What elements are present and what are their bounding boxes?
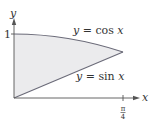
graph-canvas: y x 1 π 4 y = cos x y = sin x xyxy=(0,0,153,129)
cos-label-x: x xyxy=(117,24,124,37)
x-axis-label: x xyxy=(142,91,149,104)
x-axis-arrow-icon xyxy=(133,96,140,100)
y-axis-label: y xyxy=(9,7,17,20)
y-tick-label: 1 xyxy=(4,28,11,41)
x-tick-label-denominator: 4 xyxy=(121,113,126,121)
sin-label-x: x xyxy=(118,70,125,83)
cos-label-rest: = cos xyxy=(79,24,117,37)
shaded-region xyxy=(14,34,123,98)
sin-curve-label: y = sin x xyxy=(75,70,125,83)
x-tick-label-numerator: π xyxy=(121,105,126,113)
cos-curve-label: y = cos x xyxy=(72,24,124,37)
sin-label-rest: = sin xyxy=(82,70,118,83)
